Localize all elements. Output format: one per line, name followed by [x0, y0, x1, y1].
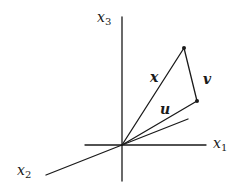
projection-line [122, 119, 188, 145]
axis-x2 [46, 145, 122, 175]
label-vector-v: v [203, 71, 212, 87]
vector-diagram: x3 x1 x2 x u v [0, 0, 248, 194]
label-vector-x: x [149, 69, 159, 85]
label-x2: x2 [17, 162, 31, 180]
point-x-tip [182, 46, 186, 50]
label-vector-u: u [160, 101, 170, 117]
label-x1: x1 [213, 135, 227, 153]
vector-v [184, 48, 197, 101]
vector-x [122, 48, 184, 145]
point-u-tip [195, 99, 199, 103]
label-x3: x3 [97, 9, 111, 27]
